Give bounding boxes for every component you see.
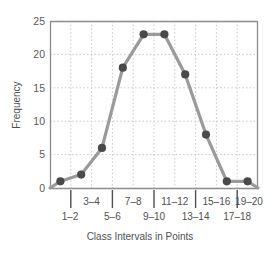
data-point-7-8 <box>119 64 127 72</box>
x-label-11-12: 11–12 <box>161 196 189 207</box>
x-label-1-2: 1–2 <box>62 211 79 222</box>
y-axis-title: Frequency <box>11 81 22 128</box>
data-point-9-10 <box>140 30 148 38</box>
x-label-3-4: 3–4 <box>83 196 100 207</box>
data-point-11-12 <box>160 30 168 38</box>
y-tick-label-0: 0 <box>39 182 45 194</box>
data-point-15-16 <box>202 131 210 139</box>
data-point-17-18 <box>223 177 231 185</box>
y-tick-label-10: 10 <box>33 115 45 127</box>
x-label-19-20: 19–20 <box>235 196 263 207</box>
frequency-polygon-chart: 0 5 10 15 20 25 Frequency <box>0 0 272 257</box>
data-point-19-20 <box>244 177 252 185</box>
data-point-13-14 <box>181 70 189 78</box>
y-tick-label-20: 20 <box>33 48 45 60</box>
x-label-13-14: 13–14 <box>182 211 210 222</box>
y-tick-label-15: 15 <box>33 82 45 94</box>
y-tick-label-5: 5 <box>39 148 45 160</box>
data-point-3-4 <box>77 171 85 179</box>
y-axis-tick-labels: 0 5 10 15 20 25 <box>33 15 45 194</box>
x-axis-labels-top-row: 3–4 7–8 11–12 15–16 19–20 <box>83 196 263 207</box>
x-axis-labels-bottom-row: 1–2 5–6 9–10 13–14 17–18 <box>62 211 252 222</box>
x-label-9-10: 9–10 <box>143 211 166 222</box>
chart-canvas: 0 5 10 15 20 25 Frequency <box>0 0 272 257</box>
data-point-5-6 <box>98 144 106 152</box>
data-point-1-2 <box>56 177 64 185</box>
x-label-15-16: 15–16 <box>202 196 230 207</box>
x-label-5-6: 5–6 <box>104 211 121 222</box>
y-tick-label-25: 25 <box>33 15 45 27</box>
x-axis-title: Class Intervals in Points <box>87 231 194 242</box>
x-label-7-8: 7–8 <box>125 196 142 207</box>
x-label-17-18: 17–18 <box>223 211 251 222</box>
